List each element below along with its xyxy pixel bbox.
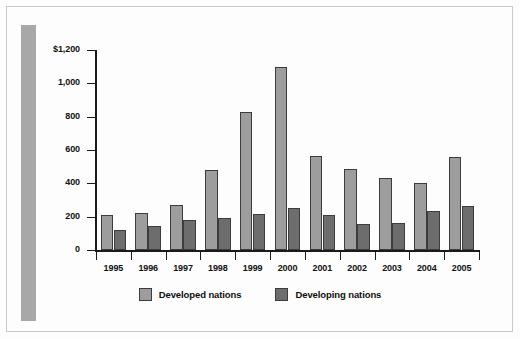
x-axis-tick: [270, 252, 271, 260]
y-axis-tick: [87, 117, 96, 118]
y-axis-tick: [87, 250, 96, 251]
bar-2001-developing: [323, 215, 336, 250]
bar-2002-developed: [344, 169, 357, 250]
y-axis-tick: [87, 83, 96, 84]
x-axis-tick: [340, 252, 341, 260]
y-axis-tick-label-text: 400: [18, 177, 80, 187]
y-axis-tick-label: $1,200: [18, 44, 80, 55]
bar-1997-developing: [183, 220, 196, 250]
x-axis-tick: [235, 252, 236, 260]
bar-1997-developed: [170, 205, 183, 250]
bar-1998-developed: [205, 170, 218, 250]
bar-1999-developing: [253, 214, 266, 250]
x-axis-label-1998: 1998: [200, 263, 235, 273]
y-axis-tick-label-text: 200: [18, 211, 80, 221]
bar-2000-developing: [288, 208, 301, 250]
legend-label-developed: Developed nations: [159, 289, 242, 300]
x-axis-tick: [131, 252, 132, 260]
legend-label-developing: Developing nations: [295, 289, 381, 300]
bar-1998-developing: [218, 218, 231, 250]
y-axis-tick-label-text: 1,000: [18, 77, 80, 87]
legend-swatch-developing: [275, 288, 288, 301]
bar-1996-developed: [135, 213, 148, 250]
bar-2001-developed: [310, 156, 323, 250]
chart-legend: Developed nations Developing nations: [0, 288, 520, 301]
x-axis-label-2003: 2003: [375, 263, 410, 273]
x-axis-tick: [200, 252, 201, 260]
legend-item-developed: Developed nations: [139, 288, 242, 301]
y-axis-tick-label: 800: [18, 111, 80, 122]
bar-1999-developed: [240, 112, 253, 250]
x-axis-line: [95, 250, 480, 252]
bar-1996-developing: [148, 226, 161, 250]
bar-2005-developed: [449, 157, 462, 250]
x-axis-tick: [479, 252, 480, 260]
x-axis-tick: [96, 252, 97, 260]
x-axis-label-2004: 2004: [409, 263, 444, 273]
x-axis-label-1997: 1997: [166, 263, 201, 273]
x-axis-label-2001: 2001: [305, 263, 340, 273]
legend-item-developing: Developing nations: [275, 288, 381, 301]
y-axis-tick-label-text: 800: [18, 111, 80, 121]
y-axis-tick-label: 400: [18, 177, 80, 188]
bar-1995-developing: [114, 230, 127, 250]
y-axis-tick-label-text: 600: [18, 144, 80, 154]
y-axis-tick: [87, 50, 96, 51]
bar-2005-developing: [462, 206, 475, 250]
chart-figure: 02004006008001,000$1,200 199519961997199…: [0, 0, 520, 339]
x-axis-tick: [166, 252, 167, 260]
y-axis-tick-label-text: 0: [18, 244, 80, 254]
legend-swatch-developed: [139, 288, 152, 301]
x-axis-label-1999: 1999: [235, 263, 270, 273]
bar-1995-developed: [101, 215, 114, 250]
x-axis-tick: [409, 252, 410, 260]
x-axis-tick: [444, 252, 445, 260]
y-axis-tick-label: 0: [18, 244, 80, 255]
y-axis-tick: [87, 183, 96, 184]
y-axis-tick: [87, 150, 96, 151]
y-axis-tick-label: 600: [18, 144, 80, 155]
x-axis-label-2005: 2005: [444, 263, 479, 273]
bar-2004-developing: [427, 211, 440, 250]
y-axis-tick-label: 1,000: [18, 77, 80, 88]
bar-2000-developed: [275, 67, 288, 250]
bar-2003-developing: [392, 223, 405, 250]
y-axis-tick-label: 200: [18, 211, 80, 222]
x-axis-tick: [375, 252, 376, 260]
y-axis-tick-label-text: $1,200: [18, 44, 80, 54]
x-axis-label-2002: 2002: [340, 263, 375, 273]
bar-2004-developed: [414, 183, 427, 250]
x-axis-label-1995: 1995: [96, 263, 131, 273]
x-axis-label-1996: 1996: [131, 263, 166, 273]
x-axis-label-2000: 2000: [270, 263, 305, 273]
bar-2003-developed: [379, 178, 392, 250]
bar-2002-developing: [357, 224, 370, 250]
y-axis-tick: [87, 217, 96, 218]
x-axis-tick: [305, 252, 306, 260]
